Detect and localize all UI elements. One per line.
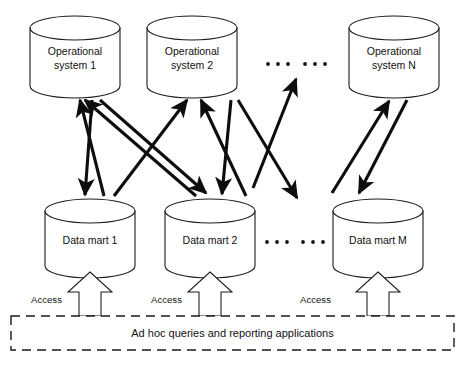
data-mart-1[interactable]: Data mart 1 (45, 199, 135, 278)
cylinder-top-dmM (333, 199, 423, 223)
data-marts-row: Data mart 1 Data mart 2 Data mart M (45, 199, 423, 278)
access-arrow-group: Access Access Access (31, 272, 400, 316)
operational-system-2-label-line1: Operational (165, 45, 219, 57)
cylinder-top-dm2 (165, 199, 255, 223)
consumer-applications-box[interactable]: Ad hoc queries and reporting application… (11, 316, 454, 350)
cylinder-top-os1 (30, 16, 120, 40)
operational-system-n[interactable]: Operational system N (349, 16, 439, 98)
access-label-dm2: Access (151, 294, 182, 305)
operational-systems-row: Operational system 1 Operational system … (30, 16, 439, 98)
operational-system-2-label-line2: system 2 (171, 59, 213, 71)
access-label-dmM: Access (300, 294, 331, 305)
operational-system-n-label-line2: system N (372, 59, 416, 71)
data-mart-m[interactable]: Data mart M (333, 199, 423, 278)
data-mart-m-label: Data mart M (349, 234, 407, 246)
data-mart-2-label: Data mart 2 (183, 234, 238, 246)
data-mart-1-label: Data mart 1 (63, 234, 118, 246)
connector-dmM-to-osN (332, 101, 389, 193)
operational-systems-ellipsis (266, 62, 327, 66)
cylinder-top-os2 (147, 16, 237, 40)
access-label-dm1: Access (31, 294, 62, 305)
operational-system-1-label-line1: Operational (48, 45, 102, 57)
cylinder-top-osN (349, 16, 439, 40)
block-arrow-dmM-shape (356, 272, 400, 316)
access-arrow-dm2[interactable] (188, 272, 232, 316)
operational-system-n-label-line1: Operational (367, 45, 421, 57)
connector-os1-to-dm2 (100, 100, 206, 193)
access-arrow-dmM[interactable] (356, 272, 400, 316)
connector-os2-to-dm-right (238, 100, 297, 198)
cylinder-top-dm1 (45, 199, 135, 223)
block-arrow-dm1-shape (68, 272, 112, 316)
block-arrow-dm2-shape (188, 272, 232, 316)
connector-arrow-group (80, 79, 407, 198)
access-arrow-dm1[interactable] (68, 272, 112, 316)
data-mart-2[interactable]: Data mart 2 (165, 199, 255, 278)
operational-system-1[interactable]: Operational system 1 (30, 16, 120, 98)
data-marts-ellipsis (265, 240, 325, 244)
operational-system-2[interactable]: Operational system 2 (147, 16, 237, 98)
connector-osN-to-dmM (359, 100, 407, 193)
connector-dm1-to-os2 (114, 100, 187, 196)
diagram-canvas: Operational system 1 Operational system … (0, 0, 465, 365)
operational-system-1-label-line2: system 1 (54, 59, 96, 71)
architecture-diagram-svg: Operational system 1 Operational system … (0, 0, 465, 365)
consumer-box-label: Ad hoc queries and reporting application… (131, 327, 334, 339)
